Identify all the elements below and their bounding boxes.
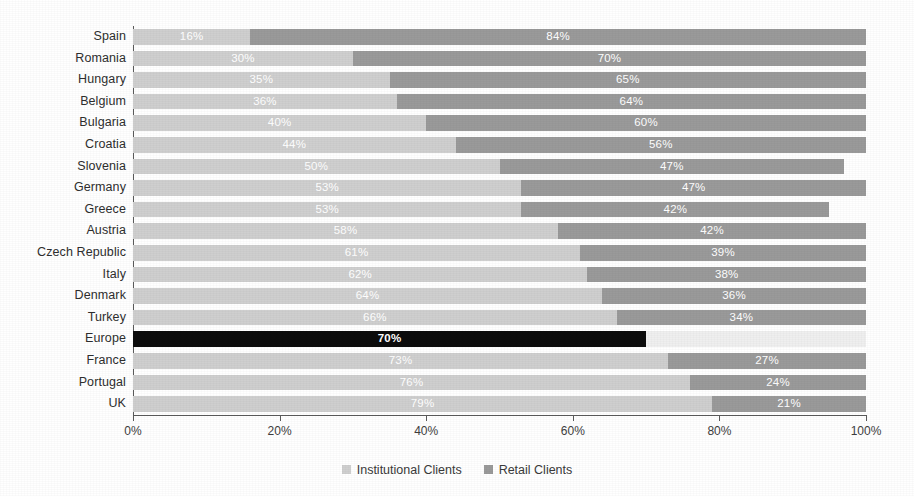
x-tick-mark [719, 415, 720, 421]
category-label: Germany [0, 177, 126, 199]
segment-value-retail: 65% [390, 72, 866, 88]
segment-value-institutional: 30% [133, 51, 353, 67]
segment-retail: 24% [690, 375, 866, 391]
x-tick-mark [573, 415, 574, 421]
table-row: Europe70% [0, 328, 914, 350]
x-axis-line [133, 415, 866, 416]
segment-value-retail: 42% [521, 202, 829, 218]
segment-value-retail: 21% [712, 396, 866, 412]
segment-institutional: 16% [133, 29, 250, 45]
segment-institutional: 58% [133, 223, 558, 239]
category-label: Croatia [0, 134, 126, 156]
bar-track: 79%21% [133, 396, 866, 412]
segment-value-institutional: 70% [133, 331, 646, 347]
category-label: Denmark [0, 285, 126, 307]
legend-swatch-icon [342, 465, 351, 474]
segment-value-institutional: 58% [133, 223, 558, 239]
segment-retail: 64% [397, 94, 866, 110]
segment-retail: 42% [558, 223, 866, 239]
segment-retail: 65% [390, 72, 866, 88]
segment-value-institutional: 73% [133, 353, 668, 369]
segment-institutional: 30% [133, 51, 353, 67]
bar-track: 35%65% [133, 72, 866, 88]
legend-item[interactable]: Institutional Clients [342, 462, 462, 477]
segment-value-institutional: 36% [133, 94, 397, 110]
category-label: UK [0, 393, 126, 415]
bar-track: 66%34% [133, 310, 866, 326]
segment-value-retail: 60% [426, 115, 866, 131]
segment-institutional: 79% [133, 396, 712, 412]
category-label: Greece [0, 199, 126, 221]
segment-institutional: 66% [133, 310, 617, 326]
table-row: Denmark64%36% [0, 285, 914, 307]
table-row: Slovenia50%47% [0, 156, 914, 178]
x-tick-label: 40% [414, 424, 438, 438]
bar-track: 76%24% [133, 375, 866, 391]
segment-value-institutional: 44% [133, 137, 456, 153]
segment-value-institutional: 66% [133, 310, 617, 326]
category-label: Portugal [0, 372, 126, 394]
segment-institutional: 53% [133, 180, 521, 196]
chart-legend: Institutional ClientsRetail Clients [0, 462, 914, 477]
legend-item[interactable]: Retail Clients [484, 462, 573, 477]
category-label: Belgium [0, 91, 126, 113]
segment-retail: 36% [602, 288, 866, 304]
x-tick-mark [133, 415, 134, 421]
segment-value-retail: 39% [580, 245, 866, 261]
segment-value-institutional: 64% [133, 288, 602, 304]
table-row: Austria58%42% [0, 220, 914, 242]
bar-track: 30%70% [133, 51, 866, 67]
segment-value-institutional: 50% [133, 159, 500, 175]
segment-retail: 70% [353, 51, 866, 67]
segment-value-retail: 70% [353, 51, 866, 67]
category-label: Europe [0, 328, 126, 350]
bar-track: 53%42% [133, 202, 866, 218]
table-row: UK79%21% [0, 393, 914, 415]
segment-value-institutional: 76% [133, 375, 690, 391]
segment-institutional: 64% [133, 288, 602, 304]
legend-swatch-icon [484, 465, 493, 474]
segment-institutional: 61% [133, 245, 580, 261]
category-label: Turkey [0, 307, 126, 329]
bar-track: 58%42% [133, 223, 866, 239]
bar-track: 64%36% [133, 288, 866, 304]
segment-retail: 84% [250, 29, 866, 45]
segment-value-retail: 84% [250, 29, 866, 45]
segment-retail: 47% [500, 159, 845, 175]
segment-value-retail: 56% [456, 137, 866, 153]
segment-value-institutional: 61% [133, 245, 580, 261]
table-row: France73%27% [0, 350, 914, 372]
segment-institutional: 44% [133, 137, 456, 153]
segment-value-institutional: 53% [133, 202, 521, 218]
table-row: Croatia44%56% [0, 134, 914, 156]
category-label: Hungary [0, 69, 126, 91]
segment-value-retail: 38% [587, 267, 866, 283]
segment-retail: 42% [521, 202, 829, 218]
segment-retail: 21% [712, 396, 866, 412]
bar-track: 36%64% [133, 94, 866, 110]
x-tick-label: 20% [268, 424, 292, 438]
bar-track: 62%38% [133, 267, 866, 283]
table-row: Portugal76%24% [0, 372, 914, 394]
segment-institutional: 73% [133, 353, 668, 369]
segment-value-retail: 47% [521, 180, 866, 196]
table-row: Germany53%47% [0, 177, 914, 199]
category-label: Spain [0, 26, 126, 48]
table-row: Italy62%38% [0, 264, 914, 286]
segment-institutional: 70% [133, 331, 646, 347]
bar-rows: Spain16%84%Romania30%70%Hungary35%65%Bel… [0, 26, 914, 415]
table-row: Greece53%42% [0, 199, 914, 221]
segment-retail: 34% [617, 310, 866, 326]
category-label: Bulgaria [0, 112, 126, 134]
category-label: Czech Republic [0, 242, 126, 264]
segment-institutional: 36% [133, 94, 397, 110]
segment-value-retail: 24% [690, 375, 866, 391]
category-label: France [0, 350, 126, 372]
segment-value-retail: 36% [602, 288, 866, 304]
bar-track: 44%56% [133, 137, 866, 153]
bar-track: 53%47% [133, 180, 866, 196]
segment-institutional: 53% [133, 202, 521, 218]
table-row: Bulgaria40%60% [0, 112, 914, 134]
bar-track: 70% [133, 331, 866, 347]
x-tick-label: 100% [851, 424, 882, 438]
